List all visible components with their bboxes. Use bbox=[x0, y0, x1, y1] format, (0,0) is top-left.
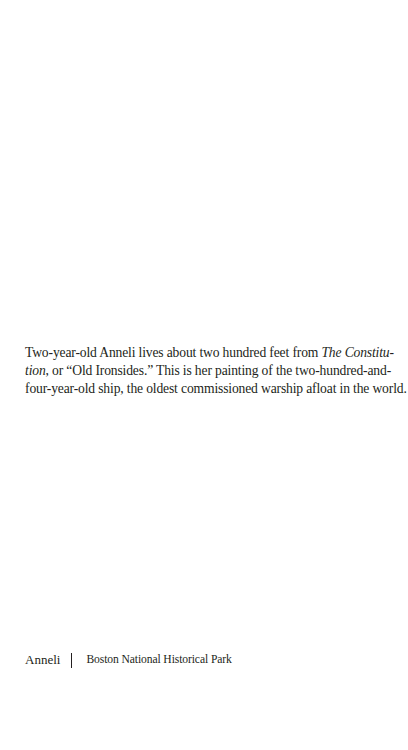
ship-title-italic-continued: tion bbox=[25, 363, 46, 378]
caption-line-3: four-year-old ship, the oldest commissio… bbox=[25, 380, 389, 398]
attribution-footer: Anneli Boston National Historical Park bbox=[25, 652, 232, 668]
caption-line-1: Two-year-old Anneli lives about two hund… bbox=[25, 344, 389, 362]
vertical-divider bbox=[71, 653, 72, 668]
caption-text: , or “Old Ironsides.” This is her painti… bbox=[46, 363, 391, 378]
park-location: Boston National Historical Park bbox=[86, 652, 231, 668]
caption-line-2: tion, or “Old Ironsides.” This is her pa… bbox=[25, 362, 389, 380]
ship-title-italic: The Constitu- bbox=[321, 345, 393, 360]
caption-text: Two-year-old Anneli lives about two hund… bbox=[25, 345, 321, 360]
artist-name: Anneli bbox=[25, 652, 60, 668]
painting-caption: Two-year-old Anneli lives about two hund… bbox=[25, 344, 389, 398]
